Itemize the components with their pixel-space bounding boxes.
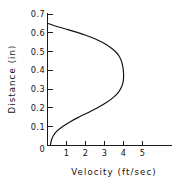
y-tick-label-0.4: 0.4 (31, 65, 45, 75)
y-tick-label-0.7: 0.7 (31, 9, 45, 19)
velocity-profile-chart: 0.7 0.6 0.5 0.4 0.3 0.2 0.1 0 1 2 3 4 5 (0, 0, 184, 185)
y-tick-label-0.5: 0.5 (31, 47, 45, 57)
x-tick-label-3: 3 (102, 148, 108, 158)
x-tick-label-5: 5 (140, 148, 146, 158)
x-tick-label-4: 4 (121, 148, 127, 158)
y-tick-label-0.2: 0.2 (31, 103, 45, 113)
y-tick-label-0: 0 (39, 144, 45, 154)
x-tick-label-2: 2 (83, 148, 89, 158)
y-tick-label-0.3: 0.3 (31, 84, 45, 94)
y-tick-label-0.1: 0.1 (31, 122, 45, 132)
y-axis-title: Distance (in) (7, 44, 17, 113)
chart-figure: 0.7 0.6 0.5 0.4 0.3 0.2 0.1 0 1 2 3 4 5 (0, 0, 184, 185)
y-tick-label-0.6: 0.6 (31, 28, 45, 38)
x-axis-title: Velocity (ft/sec) (71, 167, 156, 177)
chart-background (0, 0, 184, 185)
x-tick-label-1: 1 (64, 148, 70, 158)
